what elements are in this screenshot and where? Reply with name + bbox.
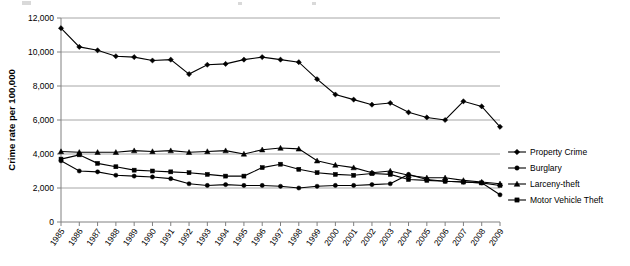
legend-item-motor-vehicle-theft[interactable]: Motor Vehicle Theft xyxy=(508,195,604,205)
data-point-circle xyxy=(132,174,136,178)
x-tick-label: 2006 xyxy=(432,226,451,247)
series-property-crime xyxy=(58,26,502,130)
data-point-circle xyxy=(260,183,264,187)
data-point-diamond xyxy=(205,62,210,67)
data-point-square xyxy=(297,167,301,171)
x-tick-label: 1999 xyxy=(304,226,323,247)
legend-label: Burglary xyxy=(530,163,562,173)
y-tick-label: 6,000 xyxy=(33,115,55,125)
x-tick-label: 1995 xyxy=(231,226,250,247)
chart-legend: Property CrimeBurglaryLarceny-theftMotor… xyxy=(508,147,604,205)
legend-label: Larceny-theft xyxy=(530,179,580,189)
data-point-square xyxy=(114,165,118,169)
crime-rate-line-chart: 02,0004,0006,0008,00010,00012,000 198519… xyxy=(0,0,630,266)
data-point-square xyxy=(260,166,264,170)
data-point-diamond xyxy=(150,58,155,63)
x-tick-label: 2005 xyxy=(413,226,432,247)
data-point-square xyxy=(242,174,246,178)
x-tick-label: 1996 xyxy=(249,226,268,247)
data-point-diamond xyxy=(241,57,246,62)
x-tick-label: 1993 xyxy=(194,226,213,247)
series-motor-vehicle-theft xyxy=(59,153,502,188)
x-axis-ticks: 1985198619871988198919901991199219931994… xyxy=(48,222,506,248)
chart-container: 02,0004,0006,0008,00010,00012,000 198519… xyxy=(0,0,630,266)
data-point-circle xyxy=(77,169,81,173)
y-tick-label: 2,000 xyxy=(33,183,55,193)
y-tick-label: 10,000 xyxy=(28,47,54,57)
legend-item-larceny-theft[interactable]: Larceny-theft xyxy=(508,179,580,189)
x-tick-label: 2008 xyxy=(468,226,487,247)
data-point-diamond xyxy=(132,55,137,60)
y-axis-ticks: 02,0004,0006,0008,00010,00012,000 xyxy=(28,13,61,227)
data-point-diamond xyxy=(369,102,374,107)
data-point-diamond xyxy=(113,54,118,59)
x-tick-label: 1987 xyxy=(84,226,103,247)
data-point-square xyxy=(150,169,154,173)
cropped-title-artifacts xyxy=(22,1,316,5)
data-point-circle xyxy=(150,175,154,179)
data-point-circle xyxy=(498,193,502,197)
series-line xyxy=(61,28,500,127)
data-point-square xyxy=(352,173,356,177)
data-series xyxy=(58,26,502,197)
data-point-circle xyxy=(333,183,337,187)
x-tick-label: 1994 xyxy=(212,226,231,247)
data-point-triangle xyxy=(314,158,319,163)
data-point-square xyxy=(187,171,191,175)
data-point-square xyxy=(388,172,392,176)
data-point-circle xyxy=(187,182,191,186)
x-tick-label: 2002 xyxy=(359,226,378,247)
data-point-diamond xyxy=(406,110,411,115)
data-point-diamond xyxy=(223,61,228,66)
x-tick-label: 2009 xyxy=(487,226,506,247)
legend-item-property-crime[interactable]: Property Crime xyxy=(508,147,587,157)
data-point-square xyxy=(224,174,228,178)
data-point-circle xyxy=(205,183,209,187)
data-point-circle xyxy=(297,186,301,190)
data-point-square xyxy=(461,180,465,184)
x-tick-label: 1991 xyxy=(157,226,176,247)
x-tick-label: 1997 xyxy=(267,226,286,247)
data-point-square xyxy=(169,170,173,174)
data-point-diamond xyxy=(278,57,283,62)
y-tick-label: 8,000 xyxy=(33,81,55,91)
x-tick-label: 1988 xyxy=(102,226,121,247)
x-tick-label: 1990 xyxy=(139,226,158,247)
data-point-circle xyxy=(95,170,99,174)
x-tick-label: 1989 xyxy=(121,226,140,247)
data-point-square xyxy=(425,178,429,182)
data-point-square xyxy=(59,157,63,161)
data-point-square xyxy=(480,181,484,185)
data-point-square xyxy=(370,172,374,176)
x-tick-label: 1985 xyxy=(48,226,67,247)
data-point-square xyxy=(407,178,411,182)
data-point-diamond xyxy=(388,100,393,105)
data-point-circle xyxy=(315,184,319,188)
data-point-square xyxy=(498,183,502,187)
legend-label: Property Crime xyxy=(530,147,587,157)
data-point-square xyxy=(96,161,100,165)
data-point-circle xyxy=(169,177,173,181)
data-point-square xyxy=(333,172,337,176)
x-tick-label: 1992 xyxy=(176,226,195,247)
data-point-diamond xyxy=(514,149,519,154)
x-tick-label: 2004 xyxy=(395,226,414,247)
x-tick-label: 2003 xyxy=(377,226,396,247)
legend-label: Motor Vehicle Theft xyxy=(530,195,604,205)
data-point-square xyxy=(205,172,209,176)
x-tick-label: 1986 xyxy=(66,226,85,247)
data-point-circle xyxy=(278,184,282,188)
data-point-square xyxy=(515,198,519,202)
data-point-circle xyxy=(370,183,374,187)
x-tick-label: 1998 xyxy=(285,226,304,247)
legend-item-burglary[interactable]: Burglary xyxy=(508,163,562,173)
data-point-circle xyxy=(242,183,246,187)
data-point-square xyxy=(132,168,136,172)
y-tick-label: 12,000 xyxy=(28,13,54,23)
data-point-circle xyxy=(388,182,392,186)
data-point-diamond xyxy=(351,97,356,102)
data-point-square xyxy=(77,153,81,157)
series-line xyxy=(61,155,500,186)
y-axis-title: Crime rate per 100,000 xyxy=(6,69,17,170)
data-point-circle xyxy=(114,173,118,177)
